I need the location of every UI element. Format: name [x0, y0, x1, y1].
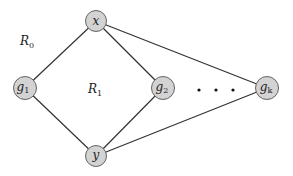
- edge-x-g1: [25, 21, 96, 88]
- node-y: y: [86, 146, 107, 167]
- edge-y-g1: [25, 88, 96, 156]
- edge-y-gk: [96, 88, 267, 156]
- node-x: x: [86, 11, 107, 32]
- region-label-r1: R1: [87, 82, 102, 98]
- edge-y-g2: [96, 88, 163, 156]
- svg-text:y: y: [92, 148, 100, 162]
- edge-x-g2: [96, 21, 163, 88]
- region-label-r0: R0: [19, 34, 34, 50]
- graph-diagram: R0 R1 x g1 g2 gk y: [0, 0, 293, 176]
- svg-text:x: x: [93, 14, 100, 28]
- edge-x-gk: [96, 21, 267, 88]
- node-gk: gk: [256, 77, 279, 100]
- node-g1: g1: [14, 77, 37, 100]
- node-g2: g2: [152, 77, 175, 100]
- ellipsis-dots: [197, 88, 234, 91]
